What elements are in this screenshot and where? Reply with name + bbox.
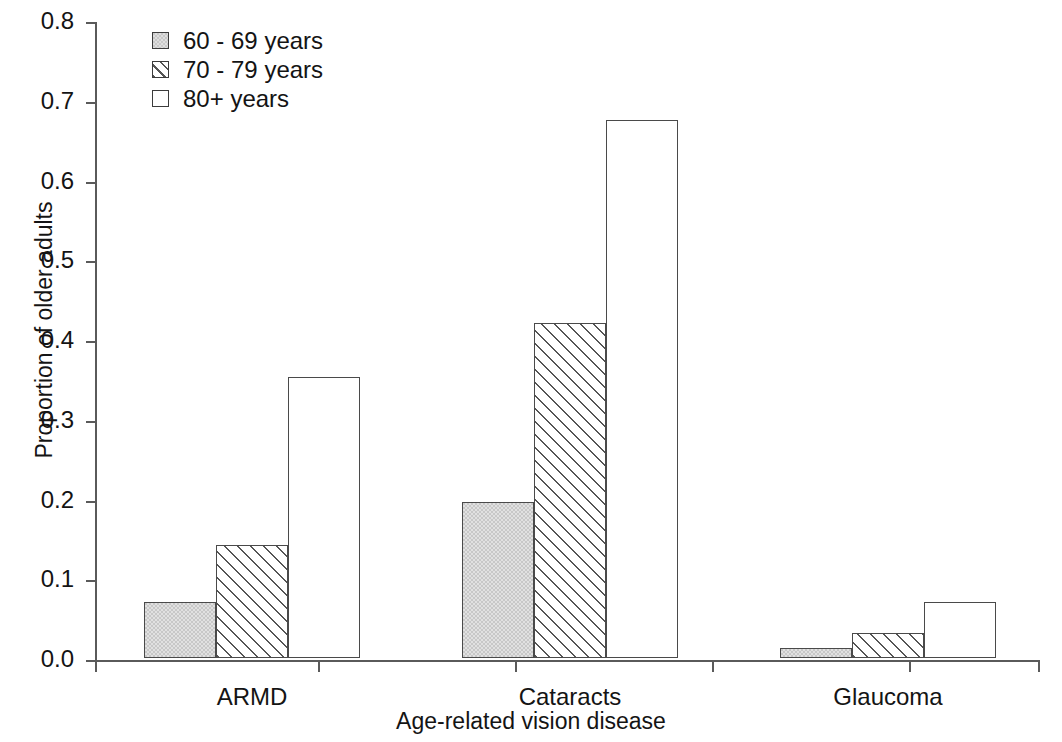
bar (924, 602, 996, 658)
x-axis-tick (909, 661, 911, 672)
x-axis-tick (318, 661, 320, 672)
bar (780, 648, 852, 658)
y-axis-tick: 0.8 (86, 22, 95, 24)
y-axis-tick: 0.5 (86, 261, 95, 263)
legend-swatch-icon (152, 32, 169, 49)
x-axis-category-label: Cataracts (519, 684, 622, 710)
y-axis-title: Proportion of older adults (32, 20, 56, 640)
plot-area: 0.80.70.60.50.40.30.20.10.0 ARMDCataract… (95, 22, 1040, 660)
y-axis-tick: 0.0 (86, 660, 95, 662)
y-axis-tick: 0.3 (86, 421, 95, 423)
legend-item-label: 80+ years (183, 86, 289, 112)
bar (462, 502, 534, 658)
x-axis-tick (515, 661, 517, 672)
bar (852, 633, 924, 658)
x-axis-category-label: Glaucoma (833, 684, 942, 710)
bar (534, 323, 606, 658)
legend-swatch-icon (152, 61, 169, 78)
x-axis-tick (1038, 661, 1040, 672)
x-axis-title: Age-related vision disease (0, 708, 1062, 734)
bar (216, 545, 288, 658)
legend-item: 70 - 79 years (152, 55, 323, 84)
legend: 60 - 69 years70 - 79 years80+ years (152, 26, 323, 113)
bar (288, 377, 360, 658)
x-axis-tick (712, 661, 714, 672)
y-axis-tick: 0.7 (86, 102, 95, 104)
x-axis-tick (95, 661, 97, 672)
y-axis-tick: 0.2 (86, 501, 95, 503)
y-axis-tick-label: 0.0 (41, 647, 74, 671)
legend-item-label: 60 - 69 years (183, 28, 323, 54)
bar (606, 120, 678, 658)
x-axis-category-label: ARMD (217, 684, 288, 710)
y-axis-line (95, 22, 97, 661)
legend-swatch-icon (152, 90, 169, 107)
x-axis-line (95, 660, 1040, 662)
legend-item-label: 70 - 79 years (183, 57, 323, 83)
bar-chart-figure: 0.80.70.60.50.40.30.20.10.0 ARMDCataract… (0, 0, 1062, 742)
legend-item: 80+ years (152, 84, 323, 113)
y-axis-tick: 0.6 (86, 182, 95, 184)
y-axis-tick: 0.1 (86, 580, 95, 582)
y-axis-tick: 0.4 (86, 341, 95, 343)
legend-item: 60 - 69 years (152, 26, 323, 55)
bar (144, 602, 216, 658)
